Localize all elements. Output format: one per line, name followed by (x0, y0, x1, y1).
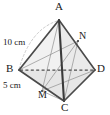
vertex-label-b: B (6, 63, 13, 74)
vertex-label-d: D (97, 63, 105, 74)
vertex-label-a: A (55, 1, 63, 12)
vertex-label-n: N (79, 31, 86, 41)
tetrahedron-figure: A B C D M N 10 cm 5 cm (0, 0, 110, 115)
tetrahedron-svg (0, 0, 110, 115)
dimension-label-5cm: 5 cm (3, 81, 21, 90)
vertex-label-m: M (38, 90, 47, 100)
dimension-label-10cm: 10 cm (3, 38, 25, 47)
vertex-label-c: C (61, 102, 68, 113)
